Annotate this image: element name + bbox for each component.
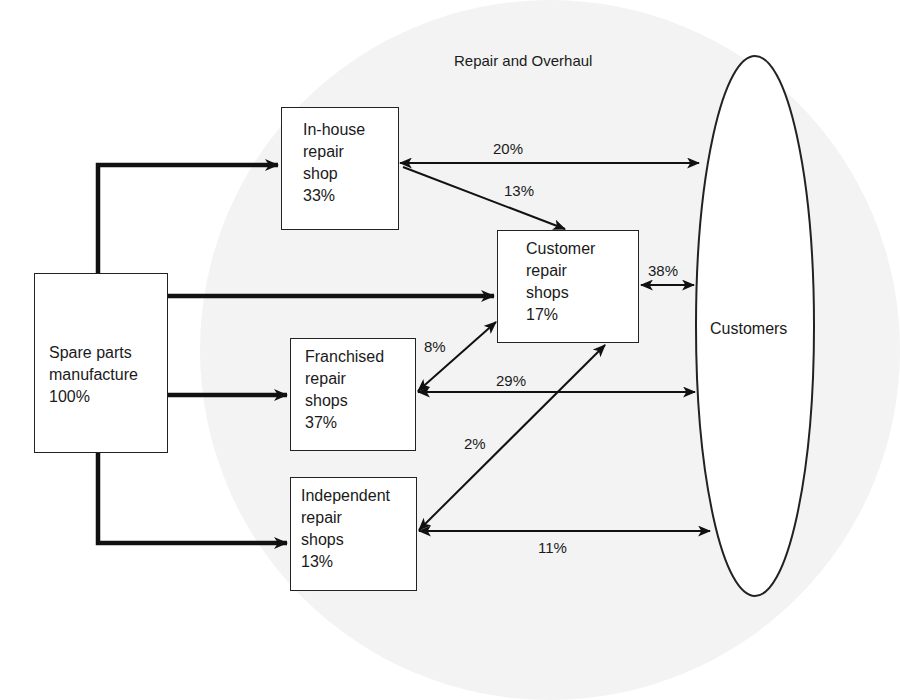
node-franchised-repair-shops: Franchised repair shops 37%	[290, 338, 416, 451]
flow-label-inhouse-customers: 20%	[493, 140, 523, 157]
flow-label-independent-customer-shops: 2%	[464, 435, 486, 452]
node-line: repair	[305, 368, 384, 390]
arrow-inhouse-customer-shops	[403, 167, 565, 229]
node-line: manufacture	[49, 364, 138, 386]
node-line: repair	[526, 260, 595, 282]
node-line: 17%	[526, 304, 595, 326]
node-line: Independent	[301, 485, 390, 507]
node-in-house-repair-shop: In-house repair shop 33%	[281, 107, 399, 230]
node-customer-repair-shops: Customer repair shops 17%	[497, 230, 639, 343]
node-spare-parts-manufacture: Spare parts manufacture 100%	[34, 273, 168, 453]
node-line: 13%	[301, 551, 390, 573]
node-line: 100%	[49, 386, 138, 408]
arrow-franchised-customer-shops	[418, 322, 496, 391]
node-line: shops	[305, 390, 384, 412]
node-customers-label: Customers	[710, 320, 787, 338]
node-line: repair	[301, 507, 390, 529]
node-line: shops	[526, 282, 595, 304]
node-line: 33%	[303, 185, 365, 207]
node-line: shop	[303, 163, 365, 185]
node-line: shops	[301, 529, 390, 551]
node-independent-repair-shops: Independent repair shops 13%	[290, 477, 417, 591]
flow-label-franchised-customer-shops: 8%	[424, 338, 446, 355]
node-line: In-house	[303, 119, 365, 141]
node-line: repair	[303, 141, 365, 163]
flow-arrows	[400, 163, 710, 531]
diagram-title: Repair and Overhaul	[454, 52, 592, 69]
flow-label-franchised-customers: 29%	[496, 372, 526, 389]
flow-label-independent-customers: 11%	[538, 539, 567, 556]
arrow-source-to-inhouse	[98, 165, 278, 273]
node-line: Franchised	[305, 346, 384, 368]
node-line: 37%	[305, 412, 384, 434]
arrow-source-to-independent	[98, 452, 287, 543]
flow-label-inhouse-customer-shops: 13%	[504, 182, 534, 199]
node-line: Customer	[526, 238, 595, 260]
node-line: Spare parts	[49, 342, 138, 364]
flow-label-customer-shops-customers: 38%	[648, 262, 678, 279]
